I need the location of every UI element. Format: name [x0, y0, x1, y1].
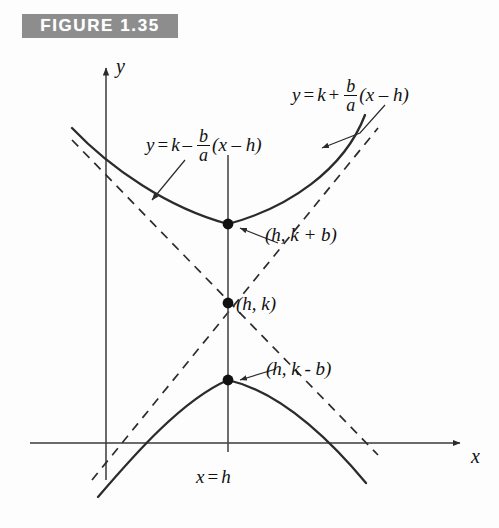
eq-pos-equals: = — [300, 84, 317, 105]
eq-neg-numerator: b — [197, 127, 210, 145]
asymptote-negative-equation: y=k–ba(x – h) — [146, 128, 262, 166]
point-center — [223, 298, 234, 309]
y-axis-label: y — [116, 55, 125, 78]
eq-neg-fraction: ba — [197, 127, 210, 165]
asymptote-positive-equation: y=k+ba(x – h) — [292, 78, 409, 116]
vertex-top-label: (h, k + b) — [265, 224, 337, 246]
point-vertex-bottom — [223, 375, 234, 386]
eq-neg-equals: = — [154, 134, 171, 155]
asymptote-negative-line — [72, 140, 378, 455]
center-label: (h, k) — [236, 293, 276, 315]
point-vertex-top — [223, 219, 234, 230]
xeqh-equals: = — [204, 466, 221, 487]
xeqh-rhs: h — [221, 466, 231, 487]
x-axis-label: x — [471, 445, 480, 468]
figure-container: FIGURE 1.35 — [0, 0, 499, 528]
eq-pos-sign: + — [326, 84, 343, 105]
hyperbola-plot — [0, 0, 499, 528]
eq-neg-denominator: a — [197, 145, 210, 165]
eq-pos-factor: (x – h) — [359, 84, 409, 105]
eq-neg-sign: – — [180, 134, 196, 155]
eq-pos-k: k — [317, 84, 325, 105]
eq-pos-numerator: b — [344, 77, 357, 95]
eq-pos-denominator: a — [344, 95, 357, 115]
vertex-bottom-label: (h, k - b) — [266, 358, 331, 380]
hyperbola-lower-branch — [98, 380, 366, 497]
eq-neg-k: k — [171, 134, 179, 155]
eq-pos-fraction: ba — [344, 77, 357, 115]
eq-neg-factor: (x – h) — [212, 134, 262, 155]
vertical-line-label: x=h — [196, 466, 231, 488]
